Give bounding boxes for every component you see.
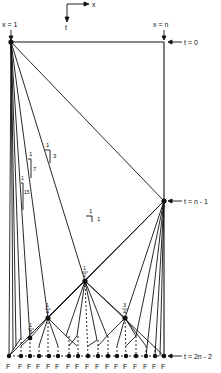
axis-indicator xyxy=(65,2,89,22)
node-half xyxy=(82,278,87,283)
slope-3-rise: 1 xyxy=(46,142,50,148)
svg-text:F: F xyxy=(85,363,89,370)
x-axis-label: x xyxy=(92,1,96,8)
svg-text:F: F xyxy=(66,363,70,370)
slope-7-rise: 1 xyxy=(29,151,33,157)
slope-1-rise: 1 xyxy=(89,208,93,214)
svg-text:F: F xyxy=(46,363,50,370)
frac-three-quarter-den: 4 xyxy=(123,309,126,315)
svg-text:F: F xyxy=(152,363,156,370)
slope-7-run: 7 xyxy=(33,166,37,172)
svg-text:F: F xyxy=(161,363,165,370)
frac-eighth-num: 1 xyxy=(29,322,32,328)
svg-text:F: F xyxy=(75,363,79,370)
svg-text:F: F xyxy=(133,363,137,370)
slope-15-rise: 1 xyxy=(21,175,24,181)
label-x-eq-1: x = 1 xyxy=(2,21,17,28)
node-right-tn1 xyxy=(161,198,166,203)
svg-text:F: F xyxy=(143,363,147,370)
frac-three-quarter-num: 3 xyxy=(123,302,126,308)
node-quarter xyxy=(45,315,50,320)
slope-15-run: 15 xyxy=(24,189,30,195)
svg-text:F: F xyxy=(36,363,40,370)
slope-1-run: 1 xyxy=(97,216,101,222)
signal-slope-7 xyxy=(11,42,48,318)
signal-slope-3 xyxy=(11,42,85,281)
firing-squad-diagram: x t x = 1 x = n t = 0 t = n - 1 t = 2n -… xyxy=(0,0,221,373)
node-three-quarter xyxy=(122,315,127,320)
svg-text:F: F xyxy=(114,363,118,370)
svg-text:F: F xyxy=(18,363,22,370)
frac-quarter-den: 4 xyxy=(46,309,49,315)
svg-text:F: F xyxy=(123,363,127,370)
label-x-eq-n: x = n xyxy=(153,21,168,28)
svg-text:F: F xyxy=(95,363,99,370)
node-origin xyxy=(8,39,13,44)
t-axis-label: t xyxy=(65,24,67,31)
firing-labels: F F F F F F F F F F F F F F F F F xyxy=(6,363,165,370)
node-eighth xyxy=(28,336,33,341)
svg-text:F: F xyxy=(6,363,10,370)
frac-eighth-den: 8 xyxy=(29,329,32,335)
label-t-eq-0: t = 0 xyxy=(184,39,198,46)
frac-half-den: 2 xyxy=(83,272,86,278)
svg-text:F: F xyxy=(55,363,59,370)
label-t-eq-2n-minus-2: t = 2n - 2 xyxy=(184,353,212,360)
slope-3-run: 3 xyxy=(53,153,57,159)
svg-text:F: F xyxy=(27,363,31,370)
slope-triangle-1 xyxy=(86,216,92,222)
frac-half-num: 1 xyxy=(83,265,86,271)
svg-text:F: F xyxy=(105,363,109,370)
nodes xyxy=(7,39,167,358)
signal-slope-1 xyxy=(11,42,164,201)
label-t-eq-n-minus-1: t = n - 1 xyxy=(184,198,208,205)
frac-quarter-num: 1 xyxy=(46,302,49,308)
